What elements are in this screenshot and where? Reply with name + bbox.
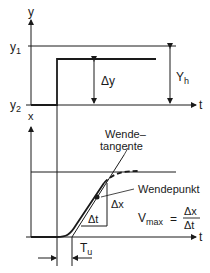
inflection-label: Wendepunkt xyxy=(138,183,200,195)
input-step-plot: y y1 y2 t Δy Yh xyxy=(10,5,203,114)
svg-text:Δx: Δx xyxy=(184,205,197,217)
svg-text:Vmax: Vmax xyxy=(138,211,164,227)
tangent-label-1: Wende– xyxy=(105,128,147,140)
delta-x-label: Δx xyxy=(111,198,124,210)
step-response-diagram: y y1 y2 t Δy Yh x t Wende– tangente Wend… xyxy=(0,0,210,273)
tu-label: Tu xyxy=(80,241,92,257)
y1-label: y1 xyxy=(10,40,21,56)
svg-text:Δt: Δt xyxy=(184,219,194,231)
response-curve xyxy=(31,183,104,237)
delta-t-label: Δt xyxy=(88,213,98,225)
x-axis-label: x xyxy=(28,110,34,122)
vmax-formula: Vmax = Δx Δt xyxy=(138,205,200,231)
yh-label: Yh xyxy=(176,70,189,86)
t-label-bottom: t xyxy=(199,230,203,244)
delta-y-label: Δy xyxy=(101,74,115,88)
y-axis-label: y xyxy=(28,5,34,19)
y2-label: y2 xyxy=(10,98,21,114)
svg-text:=: = xyxy=(170,212,177,226)
output-response-plot: x t Wende– tangente Wendepunkt Δt Δx Vma… xyxy=(26,105,203,266)
tangent-label-2: tangente xyxy=(100,140,143,152)
inflection-point xyxy=(95,195,100,200)
inflection-leader xyxy=(101,189,134,197)
t-label-top: t xyxy=(199,98,203,112)
response-curve-dashed xyxy=(104,171,140,183)
